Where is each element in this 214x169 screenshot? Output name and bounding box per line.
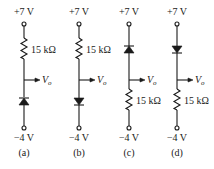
caption-a: (a) xyxy=(18,147,29,159)
top-voltage-label: +7 V xyxy=(69,6,90,17)
top-voltage-label: +7 V xyxy=(14,6,35,17)
caption-d: (d) xyxy=(171,147,183,159)
output-arrow-icon xyxy=(24,78,40,82)
output-arrow-icon xyxy=(177,78,193,82)
bottom-terminal-icon xyxy=(22,126,26,130)
bottom-voltage-label: −4 V xyxy=(119,132,140,143)
diode-icon xyxy=(124,46,134,53)
top-terminal-icon xyxy=(77,22,81,26)
resistor-label: 15 kΩ xyxy=(184,95,209,106)
top-terminal-icon xyxy=(175,22,179,26)
circuit-b: +7 V 15 kΩ Vo −4 V (b) xyxy=(69,6,111,159)
caption-b: (b) xyxy=(73,147,85,159)
output-label: Vo xyxy=(97,74,107,87)
bottom-voltage-label: −4 V xyxy=(69,132,90,143)
output-label: Vo xyxy=(195,74,205,87)
diode-icon xyxy=(74,98,84,105)
circuit-figure: +7 V 15 kΩ Vo −4 V (a) +7 V 15 kΩ Vo xyxy=(0,0,214,169)
bottom-voltage-label: −4 V xyxy=(167,132,188,143)
circuit-c: +7 V Vo 15 kΩ −4 V (c) xyxy=(119,6,161,159)
resistor-label: 15 kΩ xyxy=(86,44,111,55)
top-terminal-icon xyxy=(127,22,131,26)
output-label: Vo xyxy=(42,74,52,87)
output-arrow-icon xyxy=(79,78,95,82)
diode-icon xyxy=(19,98,29,105)
resistor-icon xyxy=(174,89,180,110)
output-label: Vo xyxy=(147,74,157,87)
resistor-label: 15 kΩ xyxy=(136,95,161,106)
bottom-terminal-icon xyxy=(175,126,179,130)
caption-c: (c) xyxy=(123,147,134,159)
top-voltage-label: +7 V xyxy=(167,6,188,17)
resistor-icon xyxy=(126,89,132,110)
output-arrow-icon xyxy=(129,78,145,82)
top-voltage-label: +7 V xyxy=(119,6,140,17)
top-terminal-icon xyxy=(22,22,26,26)
diode-icon xyxy=(172,46,182,53)
resistor-label: 15 kΩ xyxy=(31,44,56,55)
resistor-icon xyxy=(76,38,82,59)
bottom-terminal-icon xyxy=(77,126,81,130)
circuit-d: +7 V Vo 15 kΩ −4 V (d) xyxy=(167,6,209,159)
circuit-a: +7 V 15 kΩ Vo −4 V (a) xyxy=(14,6,56,159)
bottom-voltage-label: −4 V xyxy=(14,132,35,143)
bottom-terminal-icon xyxy=(127,126,131,130)
resistor-icon xyxy=(21,38,27,59)
